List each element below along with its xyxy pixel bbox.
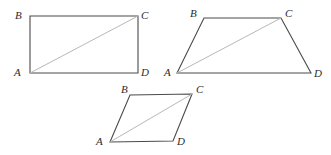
trapezoid-vertex-label-c: C [285, 8, 292, 19]
rectangle-vertex-label-a: A [14, 67, 21, 78]
trapezoid-diagonal-ac [177, 18, 281, 73]
rectangle-diagonal-ac [30, 16, 138, 73]
parallelogram-vertex-label-a: A [96, 136, 103, 147]
trapezoid-vertex-label-a: A [164, 67, 171, 78]
shape-rectangle [30, 16, 138, 73]
rectangle-vertex-label-b: B [15, 10, 22, 21]
parallelogram-vertex-label-b: B [121, 84, 128, 95]
rectangle-vertex-label-d: D [141, 67, 149, 78]
parallelogram-vertex-label-c: C [196, 84, 203, 95]
rectangle-vertex-label-c: C [141, 10, 148, 21]
trapezoid-outline [177, 18, 311, 73]
trapezoid-vertex-label-d: D [314, 68, 322, 79]
parallelogram-vertex-label-d: D [177, 136, 185, 147]
shape-trapezoid [177, 18, 311, 73]
trapezoid-vertex-label-b: B [190, 8, 197, 19]
